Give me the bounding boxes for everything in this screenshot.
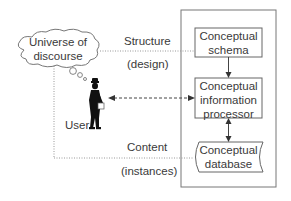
structure-label: Structure bbox=[124, 36, 171, 48]
content-sublabel: (instances) bbox=[121, 166, 177, 178]
schema-label: Conceptual schema bbox=[195, 30, 262, 58]
structure-sublabel: (design) bbox=[127, 59, 169, 71]
user-label: User bbox=[65, 120, 89, 132]
cloud-label: Universe of discourse bbox=[22, 36, 94, 64]
thought-bubble-2 bbox=[78, 73, 83, 78]
schema-label-line2: schema bbox=[195, 44, 262, 58]
processor-label: Conceptual information processor bbox=[195, 80, 262, 121]
database-label: Conceptual database bbox=[195, 144, 262, 172]
database-label-line1: Conceptual bbox=[195, 144, 262, 158]
processor-label-line1: Conceptual bbox=[195, 80, 262, 94]
cloud-label-line2: discourse bbox=[22, 50, 94, 64]
user-silhouette-icon bbox=[89, 78, 104, 129]
schema-label-line1: Conceptual bbox=[195, 30, 262, 44]
database-label-line2: database bbox=[195, 158, 262, 172]
cloud-label-line1: Universe of bbox=[22, 36, 94, 50]
processor-label-line2: information bbox=[195, 94, 262, 108]
processor-label-line3: processor bbox=[195, 108, 262, 122]
thought-bubble-1 bbox=[70, 68, 77, 75]
thought-bubble-3 bbox=[84, 78, 87, 81]
content-label: Content bbox=[127, 142, 167, 154]
